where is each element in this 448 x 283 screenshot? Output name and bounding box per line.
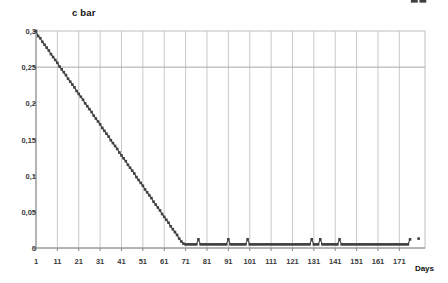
x-axis-tick-label: 121 [286,257,299,266]
data-point-marker [137,179,140,182]
data-point-marker [336,243,339,246]
data-point-marker [103,130,106,133]
data-point-marker [65,74,68,77]
y-axis-tick-label: 0,25 [6,63,36,72]
data-point-marker [152,200,155,203]
data-point-marker [97,120,100,123]
data-point-marker [159,209,162,212]
data-point-marker [139,182,142,185]
data-point-marker [39,37,42,40]
data-point-marker [90,111,93,114]
data-point-marker [54,59,57,62]
y-axis-tick-label: 0,2 [6,99,36,108]
x-axis-tick-label: 31 [96,257,104,266]
data-point-marker [73,86,76,89]
data-point-marker [62,71,65,74]
data-point-marker [415,0,418,3]
data-point-marker [338,238,341,241]
data-point-marker [157,206,160,209]
data-point-marker [142,184,145,187]
x-axis-tick-label: 81 [203,257,211,266]
data-point-marker [50,53,53,56]
data-point-marker [75,90,78,93]
x-axis-tick-label: 91 [224,257,232,266]
data-point-marker [110,139,113,142]
data-point-marker [45,46,48,49]
x-axis-tick-label: 151 [350,257,363,266]
data-point-marker [319,238,322,241]
data-point-marker [116,148,119,151]
x-axis-tick-label: 141 [329,257,342,266]
y-axis-tick-label: 0,15 [6,135,36,144]
data-point-marker [88,108,91,111]
x-axis-tick-label: 61 [160,257,168,266]
data-point-marker [69,80,72,83]
data-point-marker [84,102,87,105]
data-point-marker [58,65,61,68]
data-point-marker [120,154,123,157]
x-axis-tick-label: 41 [117,257,125,266]
y-axis-tick-label: 0 [6,244,36,253]
data-point-marker [317,243,320,246]
data-point-marker [60,68,63,71]
data-point-marker [197,238,200,241]
x-axis-tick-label: 11 [53,257,61,266]
data-point-marker [129,166,132,169]
data-point-marker [43,43,46,46]
data-point-marker [417,237,420,240]
chart-plot-area [0,0,448,283]
data-point-marker [80,96,83,99]
data-point-marker [48,49,51,52]
x-axis-tick-label: 171 [393,257,406,266]
data-point-marker [167,221,170,224]
data-point-marker [99,123,102,126]
y-axis-tick-labels: 00,050,10,150,20,250,3 [0,0,36,283]
data-point-marker [127,164,130,167]
data-point-marker [135,176,138,179]
plot-frame [36,31,425,248]
data-point-marker [82,98,85,101]
x-axis-tick-label: 71 [181,257,189,266]
y-axis-tick-label: 0,05 [6,207,36,216]
data-point-marker [174,231,177,234]
data-point-marker [225,243,228,246]
data-point-marker [227,238,230,241]
data-point-marker [176,234,179,237]
data-point-marker [171,228,174,231]
data-point-marker [86,105,89,108]
data-point-marker [114,145,117,148]
data-point-marker [178,237,181,240]
data-point-marker [95,117,98,120]
x-axis-tick-label: 111 [265,257,277,266]
data-point-marker [146,191,149,194]
data-point-marker [71,83,74,86]
chart-container: c bar 00,050,10,150,20,250,3 11121314151… [0,0,448,283]
data-point-marker [308,243,311,246]
data-point-marker [407,243,410,246]
data-point-marker [310,238,313,241]
y-axis-tick-label: 0,3 [6,27,36,36]
data-point-marker [124,160,127,163]
data-point-marker [246,238,249,241]
data-point-marker [244,243,247,246]
data-point-marker [195,243,198,246]
data-point-marker [144,188,147,191]
data-point-marker [150,197,153,200]
data-point-marker [67,77,70,80]
data-point-marker [122,157,125,160]
x-axis-tick-label: 1 [34,257,38,266]
data-point-marker [165,218,168,221]
y-axis-tick-label: 0,1 [6,171,36,180]
data-point-marker [133,172,136,175]
x-axis-tick-label: 161 [372,257,385,266]
data-point-marker [52,56,55,59]
data-point-marker [112,142,115,145]
data-point-marker [56,62,59,65]
x-axis-tick-label: 21 [75,257,83,266]
data-point-marker [107,135,110,138]
data-point-marker [41,41,44,44]
data-point-marker [131,169,134,172]
x-axis-tick-label: 131 [308,257,321,266]
x-axis-tick-label: 101 [243,257,256,266]
data-point-marker [409,238,412,241]
